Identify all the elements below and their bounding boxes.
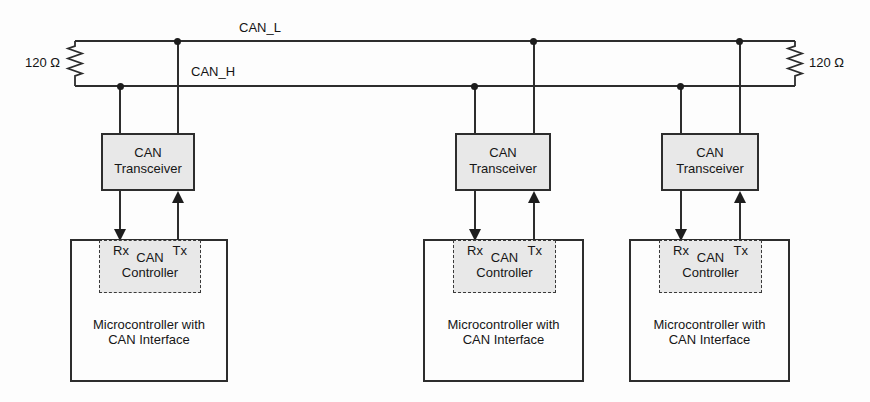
transceiver-label-line2: Transceiver (457, 161, 549, 177)
tx-arrow-up-icon (172, 191, 184, 203)
transceiver-label-line2: Transceiver (663, 161, 757, 177)
tx-arrow-up-icon (528, 191, 540, 203)
can-controller-box: Rx Tx CAN Controller (659, 240, 762, 293)
can-h-junction-dot (471, 83, 478, 90)
controller-label-line2: Controller (660, 265, 761, 280)
can-h-label: CAN_H (191, 64, 235, 79)
can-l-label: CAN_L (239, 20, 281, 35)
tx-arrow-up-icon (734, 191, 746, 203)
can-controller-box: Rx Tx CAN Controller (99, 240, 201, 293)
can-l-drop-line (533, 41, 535, 134)
can-h-drop-line (474, 86, 476, 134)
rx-signal-line (474, 191, 476, 230)
mcu-label-line2: CAN Interface (72, 332, 226, 347)
can-l-junction-dot (530, 38, 537, 45)
microcontroller-label: Microcontroller with CAN Interface (631, 317, 788, 347)
microcontroller-label: Microcontroller with CAN Interface (425, 317, 582, 347)
can-l-drop-line (739, 41, 741, 134)
can-bus-diagram: CAN_L CAN_H 120 Ω 120 Ω CAN Transceiver … (0, 0, 870, 402)
transceiver-label-line2: Transceiver (103, 161, 193, 177)
microcontroller-label: Microcontroller with CAN Interface (72, 317, 226, 347)
can-l-drop-line (177, 41, 179, 133)
can-h-drop-line (119, 86, 121, 133)
tx-signal-line (177, 203, 179, 240)
mcu-label-line1: Microcontroller with (425, 317, 582, 332)
transceiver-label-line1: CAN (663, 145, 757, 161)
can-transceiver-box: CAN Transceiver (661, 133, 759, 191)
controller-label-line2: Controller (454, 265, 555, 280)
controller-label-line1: CAN (100, 250, 200, 265)
controller-label-line1: CAN (454, 250, 555, 265)
can-l-bus-line (75, 40, 795, 42)
transceiver-label-line1: CAN (457, 145, 549, 161)
can-transceiver-box: CAN Transceiver (455, 133, 551, 191)
can-transceiver-box: CAN Transceiver (101, 133, 195, 191)
tx-signal-line (533, 203, 535, 240)
can-h-drop-line (680, 86, 682, 134)
can-h-junction-dot (677, 83, 684, 90)
termination-resistor-left-icon (65, 41, 85, 86)
can-l-junction-dot (174, 38, 181, 45)
controller-label-line2: Controller (100, 265, 200, 280)
can-controller-box: Rx Tx CAN Controller (453, 240, 556, 293)
mcu-label-line2: CAN Interface (425, 332, 582, 347)
transceiver-label-line1: CAN (103, 145, 193, 161)
can-h-bus-line (75, 85, 795, 87)
mcu-label-line1: Microcontroller with (72, 317, 226, 332)
rx-signal-line (119, 191, 121, 230)
termination-right-label: 120 Ω (809, 55, 844, 70)
can-h-junction-dot (117, 83, 124, 90)
tx-signal-line (739, 203, 741, 240)
termination-resistor-right-icon (785, 41, 805, 86)
controller-label-line1: CAN (660, 250, 761, 265)
mcu-label-line1: Microcontroller with (631, 317, 788, 332)
rx-signal-line (680, 191, 682, 230)
termination-left-label: 120 Ω (25, 55, 60, 70)
can-l-junction-dot (736, 38, 743, 45)
mcu-label-line2: CAN Interface (631, 332, 788, 347)
